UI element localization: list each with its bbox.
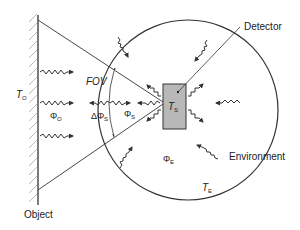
env-arrow-right: [216, 100, 240, 103]
env-arrow-bottom-left: [120, 147, 132, 168]
fov-label: FOV: [86, 76, 108, 87]
object-label: Object: [24, 209, 53, 220]
detector-emission-arrow-left: [138, 101, 160, 105]
object-flux-label: Φ O: [50, 111, 62, 122]
fov-cone: [38, 20, 163, 190]
detector-emission-arrow-downleft: [147, 110, 161, 121]
object-emission-arrow-top: [40, 70, 73, 74]
delta-phi-arrow-left: [90, 101, 110, 105]
detector-emission-arrow-downright: [188, 110, 203, 122]
svg-text:E: E: [208, 188, 212, 194]
detector: [163, 27, 240, 129]
object-temperature-label: T O: [16, 89, 27, 101]
env-arrow-bottom-right: [197, 145, 218, 159]
fov-arc: [109, 71, 114, 137]
radiation-arrows: [40, 37, 240, 168]
environment-label: Environment: [229, 151, 285, 162]
env-arrow-top-right: [195, 40, 207, 61]
svg-text:O: O: [57, 116, 62, 122]
detector-pointer-line: [178, 27, 240, 92]
detector-label: Detector: [244, 21, 282, 32]
delta-flux-label: ΔΦ S: [91, 111, 108, 122]
environment-temperature-label: T E: [202, 182, 212, 194]
object-emission-arrow-bottom: [40, 134, 73, 138]
svg-text:S: S: [104, 116, 108, 122]
environment-flux-label: Φ E: [163, 154, 174, 165]
object-surface: [29, 14, 38, 205]
detector-emission-arrow-upleft: [147, 85, 161, 96]
radiation-exchange-diagram: Detector Environment Object FOV T O T S …: [0, 0, 300, 230]
svg-text:S: S: [174, 107, 178, 113]
detector-flux-label: Φ S: [124, 109, 135, 120]
delta-phi-arrow-right: [110, 101, 130, 105]
svg-text:S: S: [131, 114, 135, 120]
svg-text:O: O: [22, 95, 27, 101]
object-emission-arrow-mid: [40, 101, 73, 105]
svg-text:ΔΦ: ΔΦ: [91, 111, 104, 121]
svg-text:E: E: [170, 159, 174, 165]
detector-emission-arrow-upright: [188, 84, 203, 96]
